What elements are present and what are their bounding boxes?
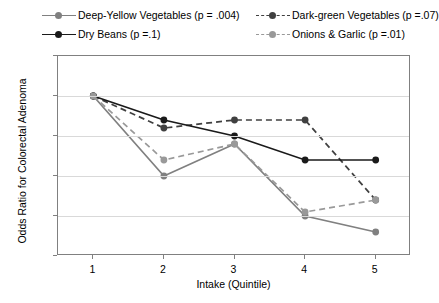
- data-point: [302, 209, 309, 216]
- legend-item-onions-and-garlic: Onions & Garlic (p =.01): [256, 29, 418, 40]
- series-dry-beans: [90, 93, 379, 164]
- series-line: [93, 96, 375, 212]
- plot-area: [57, 55, 410, 255]
- y-axis-tick: [53, 135, 57, 136]
- x-axis-tick: [234, 255, 235, 259]
- legend-marker-icon: [55, 12, 62, 19]
- legend-item-deep-yellow-vegetables: Deep-Yellow Vegetables (p = .004): [42, 10, 256, 21]
- legend-swatch-dry-beans: [42, 29, 76, 40]
- y-axis-tick: [53, 175, 57, 176]
- chart-legend: Deep-Yellow Vegetables (p = .004) Dark-g…: [42, 6, 418, 44]
- gridline: [58, 96, 409, 97]
- gridline: [58, 136, 409, 137]
- series-line: [93, 96, 375, 232]
- x-axis-tick: [304, 255, 305, 259]
- x-axis-tick-label: 1: [89, 263, 95, 275]
- legend-marker-icon: [55, 31, 62, 38]
- data-point: [161, 157, 168, 164]
- y-axis-tick: [53, 95, 57, 96]
- series-line: [93, 96, 375, 160]
- x-axis-tick: [375, 255, 376, 259]
- y-axis-title: Odds Ratio for Colorectal Adenoma: [16, 61, 28, 261]
- data-point: [302, 117, 309, 124]
- y-axis-tick: [53, 255, 57, 256]
- series-layer: [58, 56, 411, 256]
- data-point: [231, 117, 238, 124]
- data-point: [302, 157, 309, 164]
- gridline: [58, 176, 409, 177]
- series-line: [93, 96, 375, 200]
- data-point: [372, 229, 379, 236]
- legend-label-deep-yellow-vegetables: Deep-Yellow Vegetables (p = .004): [78, 10, 240, 21]
- legend-swatch-onions-and-garlic: [256, 29, 290, 40]
- x-axis-tick-label: 3: [231, 263, 237, 275]
- data-point: [231, 141, 238, 148]
- data-point: [161, 125, 168, 132]
- legend-label-dark-green-vegetables: Dark-green Vegetables (p =.07): [292, 10, 439, 21]
- x-axis-title: Intake (Quintile): [57, 278, 410, 290]
- legend-item-dry-beans: Dry Beans (p =.1): [42, 29, 256, 40]
- data-point: [372, 197, 379, 204]
- legend-item-dark-green-vegetables: Dark-green Vegetables (p =.07): [256, 10, 418, 21]
- x-axis-tick-label: 5: [372, 263, 378, 275]
- data-point: [161, 117, 168, 124]
- y-axis-tick: [53, 55, 57, 56]
- x-axis-tick: [163, 255, 164, 259]
- gridline: [58, 216, 409, 217]
- y-axis-tick: [53, 215, 57, 216]
- legend-swatch-deep-yellow-vegetables: [42, 10, 76, 21]
- x-axis-tick-label: 2: [160, 263, 166, 275]
- legend-marker-icon: [269, 31, 276, 38]
- x-axis-tick-label: 4: [301, 263, 307, 275]
- data-point: [372, 157, 379, 164]
- legend-label-dry-beans: Dry Beans (p =.1): [78, 29, 161, 40]
- legend-label-onions-and-garlic: Onions & Garlic (p =.01): [292, 29, 405, 40]
- x-axis-tick: [92, 255, 93, 259]
- legend-marker-icon: [269, 12, 276, 19]
- legend-swatch-dark-green-vegetables: [256, 10, 290, 21]
